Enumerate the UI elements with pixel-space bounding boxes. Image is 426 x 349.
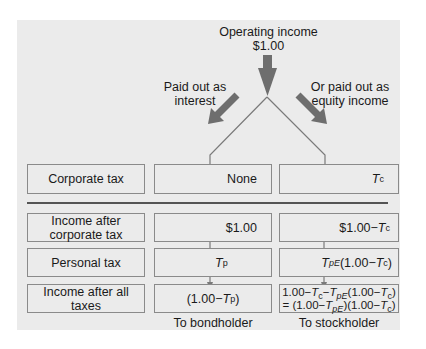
stock-formula-line1: 1.00−Tc−TpE(1.00−Tc) xyxy=(282,286,396,299)
operating-income-amount: $1.00 xyxy=(196,39,341,53)
cell-text: T xyxy=(215,256,223,270)
operating-income-label: Operating income $1.00 xyxy=(196,25,341,53)
bond-corporate-tax: None xyxy=(154,164,272,194)
stock-personal-tax: TpE(1.00−Tc) xyxy=(279,248,399,277)
cell-text: − xyxy=(323,286,330,298)
cell-text: T xyxy=(222,292,230,306)
cell-text: T xyxy=(378,221,386,235)
down-arrow-icon xyxy=(258,55,277,96)
equity-line1: Or paid out as xyxy=(300,80,400,94)
row-label-income-after-all: Income after all taxes xyxy=(27,284,145,313)
cell-text: $1.00− xyxy=(339,221,378,235)
cell-text: T xyxy=(321,256,329,270)
equity-branch-label: Or paid out as equity income xyxy=(300,80,400,108)
interest-line1: Paid out as xyxy=(150,80,240,94)
row-label-personal-tax: Personal tax xyxy=(27,248,145,277)
cell-text: )(1.00− xyxy=(343,299,380,311)
footer-bondholder: To bondholder xyxy=(154,316,272,330)
operating-income-title: Operating income xyxy=(196,25,341,39)
row-label-text: Income after all taxes xyxy=(28,285,144,313)
cell-text: $1.00 xyxy=(226,221,257,235)
interest-branch-label: Paid out as interest xyxy=(150,80,240,108)
cell-text: ) xyxy=(392,299,396,311)
stock-formula-line2: = (1.00−TpE)(1.00−Tc) xyxy=(282,299,395,312)
row-label-income-after-corp: Income after corporate tax xyxy=(27,213,145,242)
cell-text: = (1.00− xyxy=(282,299,325,311)
cell-text: T xyxy=(380,286,387,298)
footer-stockholder: To stockholder xyxy=(279,316,399,330)
cell-text: T xyxy=(372,172,380,186)
row-label-text: Income after xyxy=(51,214,120,228)
cell-text: ) xyxy=(392,286,396,298)
interest-line2: interest xyxy=(150,94,240,108)
row-label-text: Personal tax xyxy=(51,256,120,270)
bond-income-after-all: (1.00−Tp) xyxy=(154,284,272,313)
row-label-text: Corporate tax xyxy=(48,172,124,186)
cell-text: T xyxy=(330,286,337,298)
cell-text: 1.00− xyxy=(282,286,311,298)
row-label-corporate-tax: Corporate tax xyxy=(27,164,145,194)
cell-text: None xyxy=(227,172,257,186)
bond-personal-tax: Tp xyxy=(154,248,272,277)
row-label-text: corporate tax xyxy=(50,228,123,242)
equity-line2: equity income xyxy=(300,94,400,108)
cell-text: (1.00− xyxy=(340,256,376,270)
cell-text: ) xyxy=(235,292,239,306)
cell-text: ) xyxy=(388,256,392,270)
cell-text: (1.00− xyxy=(187,292,223,306)
cell-text: (1.00− xyxy=(348,286,381,298)
stock-corporate-tax: Tc xyxy=(279,164,399,194)
cell-text: T xyxy=(376,256,384,270)
cell-sub: pE xyxy=(332,304,343,314)
stock-income-after-all: 1.00−Tc−TpE(1.00−Tc) = (1.00−TpE)(1.00−T… xyxy=(279,284,399,313)
bond-income-after-corp: $1.00 xyxy=(154,213,272,242)
stock-income-after-corp: $1.00−Tc xyxy=(279,213,399,242)
